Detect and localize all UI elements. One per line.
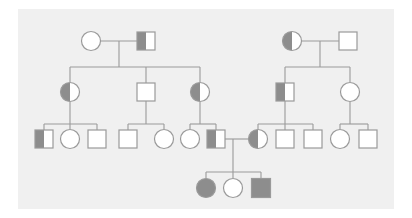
mating-line-m1 [101,41,137,67]
generation-2 [61,83,360,102]
descent-line-m6 [258,101,313,130]
generation-4 [197,179,271,198]
individual-iii-8[interactable] [249,130,268,149]
descent-line-m5 [190,102,216,130]
individual-iv-1[interactable] [197,179,216,198]
descent-line-m7 [340,102,368,130]
connector-lines [44,41,368,179]
individual-iii-4[interactable] [119,130,137,148]
individual-ii-1[interactable] [61,83,80,102]
individual-ii-3[interactable] [191,83,210,102]
individual-iii-10[interactable] [304,130,322,148]
individual-i-4[interactable] [339,32,357,50]
individual-i-1[interactable] [82,32,101,51]
sibship-m2 [285,67,350,83]
individual-iii-1[interactable] [35,130,53,148]
sibship-m1 [70,67,200,83]
descent-line-m4 [128,101,164,130]
individual-iii-11[interactable] [331,130,350,149]
descent-line-m3 [44,102,97,130]
pedigree-diagram [0,0,412,218]
generation-3 [35,130,377,149]
individual-iii-7[interactable] [207,130,225,148]
individual-iii-9[interactable] [276,130,294,148]
individual-iii-6[interactable] [181,130,200,149]
individual-iv-2[interactable] [224,179,243,198]
mating-line-m2 [302,41,339,67]
individual-ii-2[interactable] [137,83,155,101]
individual-ii-5[interactable] [341,83,360,102]
individual-iii-3[interactable] [88,130,106,148]
individual-iii-12[interactable] [359,130,377,148]
individual-iii-5[interactable] [155,130,174,149]
individual-i-3[interactable] [283,32,302,51]
pedigree-figure: Pedigree chart [0,0,412,218]
individual-ii-4[interactable] [276,83,294,101]
mating-line-m8 [225,139,248,172]
individual-iv-3[interactable] [252,179,271,198]
individual-i-2[interactable] [137,32,155,50]
individual-iii-2[interactable] [61,130,80,149]
